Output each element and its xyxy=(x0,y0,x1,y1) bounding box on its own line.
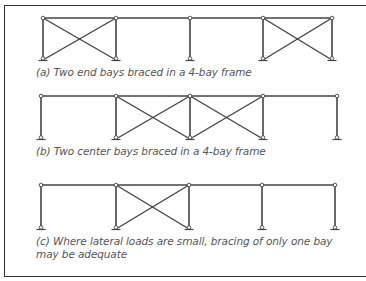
pin-support-icon xyxy=(330,57,334,61)
pin-joint-icon xyxy=(39,183,43,187)
caption-a: (a) Two end bays braced in a 4-bay frame xyxy=(36,66,252,79)
pin-joint-icon xyxy=(39,94,43,98)
pin-joint-icon xyxy=(188,94,192,98)
frame-a-two-end-bays xyxy=(39,16,337,60)
pin-support-icon xyxy=(261,136,265,140)
caption-c: (c) Where lateral loads are small, braci… xyxy=(36,235,336,261)
pin-support-icon xyxy=(333,226,337,230)
pin-support-icon xyxy=(39,136,43,140)
frame-c-one-bay xyxy=(37,183,340,229)
pin-support-icon xyxy=(188,136,192,140)
caption-b: (b) Two center bays braced in a 4-bay fr… xyxy=(36,145,266,158)
pin-support-icon xyxy=(114,226,118,230)
frame-b-two-center-bays xyxy=(37,94,342,139)
pin-joint-icon xyxy=(187,183,191,187)
pin-support-icon xyxy=(335,136,339,140)
pin-support-icon xyxy=(260,226,264,230)
pin-joint-icon xyxy=(114,16,118,20)
pin-support-icon xyxy=(41,57,45,61)
pin-support-icon xyxy=(188,57,192,61)
pin-joint-icon xyxy=(260,183,264,187)
pin-support-icon xyxy=(261,57,265,61)
pin-joint-icon xyxy=(114,183,118,187)
pin-joint-icon xyxy=(335,94,339,98)
pin-joint-icon xyxy=(261,94,265,98)
pin-joint-icon xyxy=(114,94,118,98)
pin-joint-icon xyxy=(188,16,192,20)
pin-joint-icon xyxy=(261,16,265,20)
pin-support-icon xyxy=(114,136,118,140)
pin-joint-icon xyxy=(330,16,334,20)
pin-support-icon xyxy=(39,226,43,230)
pin-support-icon xyxy=(187,226,191,230)
pin-support-icon xyxy=(114,57,118,61)
pin-joint-icon xyxy=(333,183,337,187)
pin-joint-icon xyxy=(41,16,45,20)
